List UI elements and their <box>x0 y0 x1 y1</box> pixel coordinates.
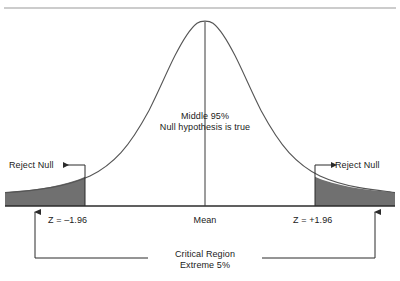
z-value-right-label: Z = +1.96 <box>293 215 332 226</box>
diagram-canvas <box>0 0 400 281</box>
critical-region-text: Critical Region <box>150 249 260 260</box>
extreme-percent-text: Extreme 5% <box>150 260 260 271</box>
middle-percent-text: Middle 95% <box>150 111 260 122</box>
normal-distribution-figure: Middle 95% Null hypothesis is true Rejec… <box>0 0 400 281</box>
z-value-left-label: Z = –1.96 <box>48 215 87 226</box>
reject-null-left-label: Reject Null <box>9 160 54 171</box>
middle-region-label: Middle 95% Null hypothesis is true <box>150 111 260 133</box>
mean-label: Mean <box>175 215 235 226</box>
critical-region-label: Critical Region Extreme 5% <box>150 249 260 271</box>
null-hypothesis-text: Null hypothesis is true <box>150 122 260 133</box>
reject-null-right-label: Reject Null <box>335 160 380 171</box>
